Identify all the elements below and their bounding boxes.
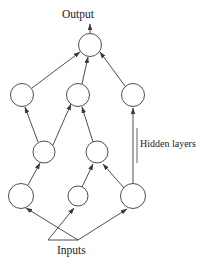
edge-group (25, 24, 133, 240)
edge-in3-h1b (103, 164, 124, 188)
edge-fan-in3 (78, 209, 127, 240)
diagram-canvas: Output Inputs Hidden layers (0, 0, 205, 267)
node-hidden2-middle[interactable] (67, 84, 90, 107)
node-hidden2-left[interactable] (11, 84, 34, 107)
edge-h1a-h2b (53, 104, 71, 145)
edge-h2c-out (100, 52, 125, 86)
edge-h1a-h2a (25, 107, 38, 142)
node-hidden1-left[interactable] (33, 141, 55, 163)
node-input-right[interactable] (121, 184, 146, 209)
edge-in1-h1a (28, 163, 40, 185)
node-output[interactable] (79, 34, 102, 57)
edge-in2-h1b (82, 164, 93, 187)
edge-h2a-out (32, 52, 80, 88)
inputs-label: Inputs (57, 245, 86, 257)
hidden-layers-label: Hidden layers (140, 139, 196, 149)
output-label: Output (62, 9, 94, 21)
edge-h2b-out (82, 57, 88, 84)
edge-h1b-h2b (82, 107, 93, 142)
node-hidden2-right[interactable] (122, 84, 145, 107)
node-hidden1-right[interactable] (86, 141, 108, 163)
neural-network-graphic (0, 0, 205, 267)
node-input-middle[interactable] (68, 186, 88, 206)
node-input-left[interactable] (9, 184, 34, 209)
